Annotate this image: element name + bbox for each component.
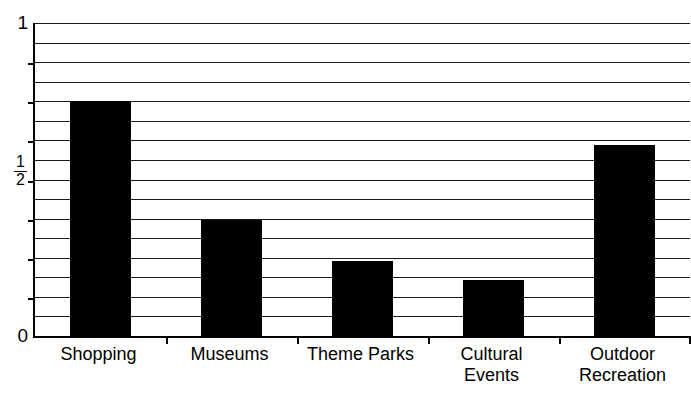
bar-museums — [201, 220, 263, 336]
x-axis-label-theme-parks: Theme Parks — [295, 344, 426, 365]
y-axis-tick — [28, 141, 35, 143]
y-axis-label-one-half-numerator: 1 — [14, 154, 27, 172]
bar-chart: 1 1 2 0 ShoppingMuseumsTheme ParksCultur… — [0, 0, 691, 399]
bar-cultural-events — [463, 280, 525, 336]
x-axis-label-museums: Museums — [164, 344, 295, 365]
x-axis-label-shopping: Shopping — [33, 344, 164, 365]
bar-outdoor-recreation — [594, 145, 656, 336]
x-axis-label-cultural-events: Cultural Events — [426, 344, 557, 386]
x-axis-labels: ShoppingMuseumsTheme ParksCultural Event… — [33, 344, 688, 399]
y-axis-labels: 1 1 2 0 — [0, 0, 28, 399]
y-axis-tick — [28, 298, 35, 300]
y-axis-label-one: 1 — [17, 13, 28, 32]
y-axis-tick — [28, 102, 35, 104]
plot-area — [33, 23, 690, 338]
x-axis-tick — [428, 336, 430, 344]
x-axis-tick — [559, 336, 561, 344]
y-axis-tick — [28, 63, 35, 65]
y-axis-tick — [28, 220, 35, 222]
bar-theme-parks — [332, 261, 394, 336]
x-axis-label-outdoor-recreation: Outdoor Recreation — [557, 344, 688, 386]
y-axis-label-one-half: 1 2 — [14, 154, 27, 189]
x-axis-tick — [166, 336, 168, 344]
y-axis-label-one-half-denominator: 2 — [14, 172, 27, 189]
bar-series — [35, 23, 690, 336]
bar-shopping — [70, 101, 132, 336]
y-axis-tick — [28, 259, 35, 261]
x-axis-tick — [297, 336, 299, 344]
y-axis-label-zero: 0 — [17, 326, 28, 345]
y-axis-tick — [28, 181, 35, 183]
